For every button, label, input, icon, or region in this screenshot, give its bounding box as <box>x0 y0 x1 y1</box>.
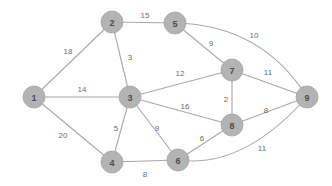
graph-node-6[interactable]: 6 <box>167 149 189 171</box>
node-circle[interactable] <box>167 149 189 171</box>
edge-label-layer: 18142015312165989101128611 <box>59 11 273 179</box>
edge-layer <box>34 22 307 162</box>
edge-weight-label: 14 <box>78 85 87 94</box>
graph-edge <box>232 70 307 97</box>
node-circle[interactable] <box>23 86 45 108</box>
graph-node-3[interactable]: 3 <box>119 86 141 108</box>
edge-weight-label: 12 <box>176 69 185 78</box>
graph-node-2[interactable]: 2 <box>101 11 123 33</box>
edge-weight-label: 8 <box>143 170 148 179</box>
graph-edge <box>130 97 232 125</box>
edge-weight-label: 16 <box>181 102 190 111</box>
edge-weight-label: 18 <box>64 47 73 56</box>
graph-edge <box>34 97 112 162</box>
edge-weight-label: 3 <box>128 53 133 62</box>
graph-edge <box>34 22 112 97</box>
edge-weight-label: 2 <box>224 95 229 104</box>
graph-node-5[interactable]: 5 <box>164 12 186 34</box>
graph-edge <box>232 97 307 125</box>
node-circle[interactable] <box>296 86 318 108</box>
node-circle[interactable] <box>221 114 243 136</box>
graph-figure: 18142015312165989101128611 123456789 <box>0 0 332 186</box>
graph-edge <box>112 22 130 97</box>
graph-node-1[interactable]: 1 <box>23 86 45 108</box>
node-layer: 123456789 <box>23 11 318 173</box>
edge-weight-label: 15 <box>141 11 150 20</box>
graph-node-4[interactable]: 4 <box>101 151 123 173</box>
edge-weight-label: 11 <box>264 68 273 77</box>
node-circle[interactable] <box>164 12 186 34</box>
node-circle[interactable] <box>221 59 243 81</box>
node-circle[interactable] <box>101 151 123 173</box>
graph-node-7[interactable]: 7 <box>221 59 243 81</box>
edge-weight-label: 6 <box>200 134 205 143</box>
edge-weight-label: 11 <box>258 144 267 153</box>
graph-edge <box>175 23 307 97</box>
edge-weight-label: 9 <box>209 39 214 48</box>
edge-weight-label: 10 <box>250 31 259 40</box>
graph-node-8[interactable]: 8 <box>221 114 243 136</box>
node-circle[interactable] <box>101 11 123 33</box>
edge-weight-label: 5 <box>114 124 119 133</box>
graph-node-9[interactable]: 9 <box>296 86 318 108</box>
node-circle[interactable] <box>119 86 141 108</box>
graph-canvas: 18142015312165989101128611 123456789 <box>0 0 332 186</box>
edge-weight-label: 20 <box>59 131 68 140</box>
graph-edge <box>130 70 232 97</box>
graph-edge <box>130 97 178 160</box>
